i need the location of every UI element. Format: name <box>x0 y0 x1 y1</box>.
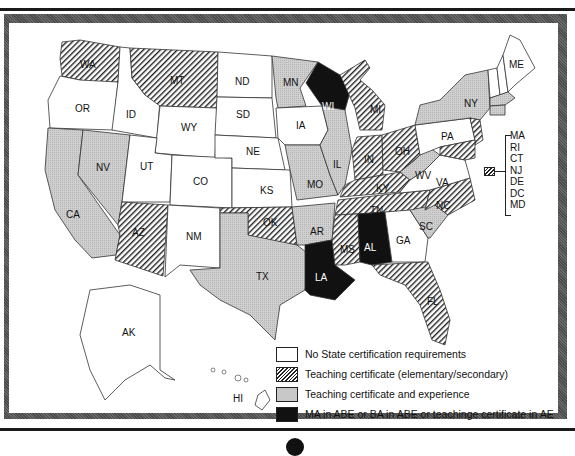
label-NC: NC <box>436 200 450 211</box>
label-MI: MI <box>370 104 381 115</box>
state-AR <box>292 203 335 245</box>
label-VA: VA <box>436 177 449 188</box>
legend-label: MA in ABE or BA in ABE or teachinge cert… <box>305 408 554 420</box>
label-IA: IA <box>296 120 306 131</box>
label-AK: AK <box>122 327 136 338</box>
legend-label: Teaching certificate and experience <box>305 388 470 400</box>
callout-state: DC <box>510 188 526 200</box>
label-IN: IN <box>364 154 374 165</box>
legend-swatch-hatched <box>276 367 298 382</box>
label-NM: NM <box>186 231 202 242</box>
label-KS: KS <box>260 185 274 196</box>
label-WI: WI <box>322 101 334 112</box>
hawaii-islands <box>211 368 248 382</box>
bottom-rule <box>0 428 575 431</box>
legend-label: No State certification requirements <box>305 348 466 360</box>
label-LA: LA <box>315 272 328 283</box>
callout-state: CT <box>510 153 526 165</box>
label-NE: NE <box>246 146 260 157</box>
state-CT <box>490 105 505 115</box>
label-MN: MN <box>283 77 299 88</box>
label-MO: MO <box>307 179 323 190</box>
legend-item-black: MA in ABE or BA in ABE or teachinge cert… <box>276 405 554 423</box>
callout-state: MA <box>510 130 526 142</box>
label-PA: PA <box>441 131 454 142</box>
state-ND <box>217 52 272 98</box>
label-ND: ND <box>235 76 249 87</box>
label-FL: FL <box>427 296 439 307</box>
label-MS: MS <box>340 244 355 255</box>
label-HI: HI <box>233 393 243 404</box>
label-NY: NY <box>464 98 478 109</box>
label-OR: OR <box>75 103 90 114</box>
label-UT: UT <box>140 161 153 172</box>
label-WV: WV <box>415 170 431 181</box>
label-OH: OH <box>395 146 410 157</box>
state-NY <box>415 70 490 125</box>
label-WA: WA <box>80 59 96 70</box>
legend-label: Teaching certificate (elementary/seconda… <box>305 368 508 380</box>
callout-state: MD <box>510 199 526 211</box>
callout-state: RI <box>510 142 526 154</box>
state-HI <box>255 390 270 410</box>
northeast-callout-swatch <box>484 167 495 176</box>
label-AL: AL <box>364 242 377 253</box>
label-TX: TX <box>256 271 269 282</box>
label-IL: IL <box>333 159 342 170</box>
label-TN: TN <box>370 205 383 216</box>
legend-item-hatch: Teaching certificate (elementary/seconda… <box>276 365 554 383</box>
northeast-callout-connector <box>495 171 505 172</box>
page-marker <box>286 438 304 456</box>
label-NV: NV <box>96 162 110 173</box>
legend-swatch-gray <box>276 387 298 402</box>
label-MT: MT <box>170 75 184 86</box>
legend-swatch-white <box>276 347 298 362</box>
label-ID: ID <box>126 109 136 120</box>
northeast-callout-list: MA RI CT NJ DE DC MD <box>510 130 526 211</box>
label-CA: CA <box>66 209 80 220</box>
callout-state: DE <box>510 176 526 188</box>
state-AZ <box>115 202 168 276</box>
label-SC: SC <box>419 221 433 232</box>
state-AK <box>80 285 175 400</box>
label-ME: ME <box>509 59 524 70</box>
map-legend: No State certification requirements Teac… <box>276 345 554 425</box>
label-OK: OK <box>263 217 278 228</box>
label-CO: CO <box>193 176 208 187</box>
label-SD: SD <box>236 109 250 120</box>
label-WY: WY <box>181 122 197 133</box>
callout-state: NJ <box>510 165 526 177</box>
label-GA: GA <box>396 235 411 246</box>
label-AR: AR <box>310 226 324 237</box>
label-KY: KY <box>376 183 390 194</box>
legend-swatch-black <box>276 407 298 422</box>
state-MS <box>332 214 360 265</box>
legend-item-gray: Teaching certificate and experience <box>276 385 554 403</box>
legend-item-none: No State certification requirements <box>276 345 554 363</box>
label-AZ: AZ <box>132 227 145 238</box>
